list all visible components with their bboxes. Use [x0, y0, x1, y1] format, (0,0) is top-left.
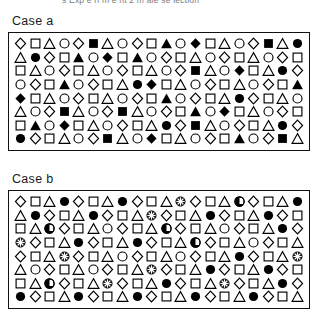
cell-filled-circle	[262, 263, 275, 276]
cell-open-triangle	[29, 64, 42, 77]
cell-open-circle	[247, 236, 260, 249]
cell-open-diamond	[276, 51, 289, 64]
cell-open-diamond	[87, 132, 100, 145]
cell-open-square	[218, 290, 231, 303]
grid-row	[14, 51, 304, 65]
cell-filled-circle	[233, 250, 246, 263]
cell-filled-diamond	[101, 51, 114, 64]
cell-open-diamond	[276, 209, 289, 222]
cell-open-triangle	[101, 250, 114, 263]
cell-open-square	[291, 209, 304, 222]
cell-open-square	[116, 209, 129, 222]
cell-open-diamond	[87, 78, 100, 91]
cell-filled-diamond	[145, 78, 158, 91]
cell-filled-circle	[131, 236, 144, 249]
cell-open-triangle	[204, 64, 217, 77]
cell-filled-circle	[72, 236, 85, 249]
cell-open-square	[145, 250, 158, 263]
cell-target-circle-half	[43, 277, 56, 290]
cell-open-triangle	[87, 277, 100, 290]
cell-target-circle-crosshair	[218, 277, 231, 290]
cell-open-circle	[145, 105, 158, 118]
cell-open-triangle	[145, 119, 158, 132]
cell-open-circle	[174, 92, 187, 105]
cell-open-circle	[87, 105, 100, 118]
cell-open-square	[43, 236, 56, 249]
cell-open-diamond	[72, 37, 85, 50]
cell-open-triangle	[276, 195, 289, 208]
cell-open-triangle	[174, 236, 187, 249]
cell-open-triangle	[189, 51, 202, 64]
cell-open-triangle	[116, 78, 129, 91]
cell-open-diamond	[145, 290, 158, 303]
cell-open-square	[58, 263, 71, 276]
cell-open-diamond	[262, 236, 275, 249]
cell-open-diamond	[72, 195, 85, 208]
cell-filled-circle	[291, 195, 304, 208]
cell-filled-diamond	[218, 105, 231, 118]
cell-open-square	[58, 209, 71, 222]
cell-open-diamond	[160, 209, 173, 222]
cell-filled-triangle	[233, 132, 246, 145]
cell-open-square	[247, 277, 260, 290]
cell-filled-circle	[87, 209, 100, 222]
cell-open-triangle	[14, 209, 27, 222]
cell-filled-triangle	[189, 105, 202, 118]
cell-open-circle	[247, 78, 260, 91]
grid-row	[14, 105, 304, 119]
cell-open-triangle	[72, 209, 85, 222]
cell-open-square	[145, 195, 158, 208]
cell-open-diamond	[131, 92, 144, 105]
cell-open-circle	[218, 119, 231, 132]
cell-open-square	[43, 78, 56, 91]
cell-open-triangle	[145, 64, 158, 77]
cell-filled-square	[58, 105, 71, 118]
cell-open-triangle	[204, 277, 217, 290]
cell-open-triangle	[262, 277, 275, 290]
cell-open-square	[291, 263, 304, 276]
cell-open-circle	[204, 51, 217, 64]
cell-filled-circle	[276, 119, 289, 132]
cell-open-triangle	[14, 263, 27, 276]
cell-open-circle	[87, 51, 100, 64]
cell-target-circle-crosshair	[174, 195, 187, 208]
cell-open-triangle	[291, 132, 304, 145]
cell-filled-square	[276, 132, 289, 145]
cell-open-square	[131, 64, 144, 77]
cell-open-diamond	[160, 51, 173, 64]
cell-open-diamond	[145, 236, 158, 249]
cell-open-diamond	[218, 209, 231, 222]
cell-open-square	[174, 263, 187, 276]
cell-open-triangle	[276, 250, 289, 263]
cell-open-circle	[218, 64, 231, 77]
grid-row	[14, 236, 304, 250]
cell-open-diamond	[262, 132, 275, 145]
cell-target-circle-crosshair	[14, 236, 27, 249]
cell-open-square	[116, 263, 129, 276]
cell-open-triangle	[58, 290, 71, 303]
cell-filled-circle	[189, 290, 202, 303]
cell-open-square	[29, 37, 42, 50]
cell-open-triangle	[204, 119, 217, 132]
cell-open-diamond	[116, 222, 129, 235]
cell-filled-circle	[14, 290, 27, 303]
cell-open-square	[276, 78, 289, 91]
cell-open-diamond	[174, 119, 187, 132]
cell-open-square	[189, 277, 202, 290]
cell-open-square	[262, 250, 275, 263]
cell-open-diamond	[58, 64, 71, 77]
cell-open-circle	[247, 132, 260, 145]
cell-open-square	[87, 92, 100, 105]
cell-open-square	[262, 92, 275, 105]
cell-filled-triangle	[131, 51, 144, 64]
cell-open-diamond	[204, 132, 217, 145]
cell-filled-circle	[204, 209, 217, 222]
cell-open-diamond	[189, 92, 202, 105]
cell-filled-triangle	[291, 78, 304, 91]
cell-open-triangle	[87, 222, 100, 235]
cell-open-diamond	[189, 250, 202, 263]
cell-open-circle	[145, 51, 158, 64]
cell-filled-circle	[131, 78, 144, 91]
cell-open-square	[29, 250, 42, 263]
cell-open-triangle	[204, 222, 217, 235]
